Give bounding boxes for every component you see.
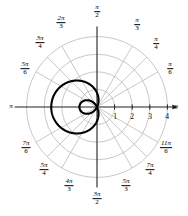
polar-chart-canvas bbox=[0, 0, 188, 216]
polar-plot-figure: 0 π π 2 π 3 π 4 π 6 2π 3 3 bbox=[0, 0, 188, 216]
